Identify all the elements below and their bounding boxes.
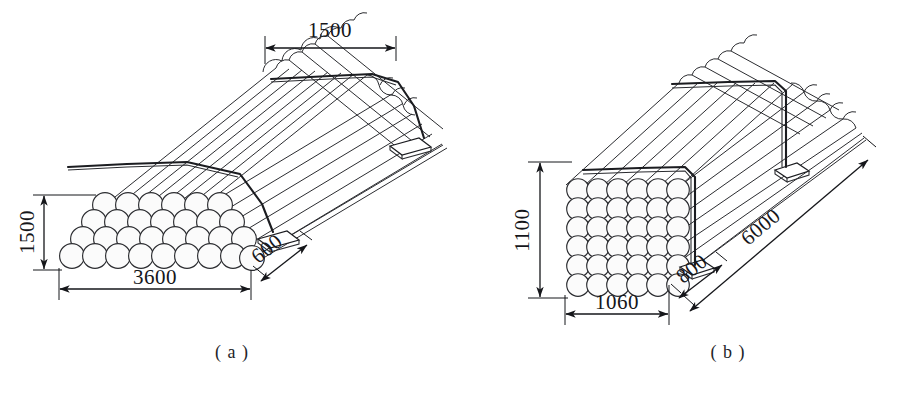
pipe-side-scallop-b bbox=[791, 83, 856, 128]
dim-label-1060: 1060 bbox=[595, 290, 639, 314]
dim-label-1500-height: 1500 bbox=[15, 210, 39, 254]
dim-label-6000: 6000 bbox=[736, 203, 785, 250]
pipe-top-face-b bbox=[566, 83, 793, 186]
pipe-top-face-a bbox=[105, 68, 367, 212]
dimension-height-b: 1100 bbox=[510, 162, 572, 298]
caption-b: ( b ) bbox=[711, 342, 746, 363]
pipe-bundle-b bbox=[566, 35, 866, 297]
pipe-end-caps-a bbox=[276, 13, 443, 153]
panel-a: 1500 1500 3600 600 ( a ) bbox=[15, 13, 447, 363]
pipe-bundle-a bbox=[60, 13, 447, 271]
panel-b: 1100 1060 800 6000 ( b ) bbox=[510, 35, 876, 363]
dim-label-1100: 1100 bbox=[510, 208, 534, 251]
pipe-end-circles-b bbox=[567, 179, 690, 297]
figure-root: 1500 1500 3600 600 ( a ) bbox=[0, 0, 911, 395]
dimension-width-a: 3600 bbox=[59, 265, 251, 300]
pipe-side-face-b bbox=[680, 92, 864, 276]
caption-a: ( a ) bbox=[215, 342, 249, 363]
binding-strap-back-a bbox=[271, 74, 424, 138]
technical-drawing-svg: 1500 1500 3600 600 ( a ) bbox=[0, 0, 911, 395]
pipe-end-circles-a bbox=[60, 193, 265, 271]
dim-label-3600: 3600 bbox=[133, 265, 177, 289]
dim-label-1500-top: 1500 bbox=[308, 18, 352, 42]
